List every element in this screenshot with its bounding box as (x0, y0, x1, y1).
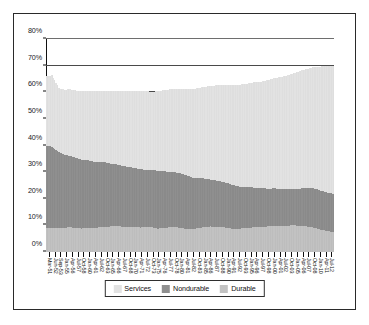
y-tick-label: 40% (28, 132, 42, 141)
x-tick-label: Jan-05 (294, 258, 299, 274)
x-tick-label: Oct-08 (311, 258, 316, 273)
x-tick-label: Apr-81 (185, 258, 190, 273)
legend-label: Durable (231, 284, 255, 293)
x-tick-label: Jan-70 (133, 258, 138, 274)
legend-label: Nondurable (173, 284, 209, 293)
y-tick-label: 60% (28, 79, 42, 88)
legend-item-durable[interactable]: Durable (220, 284, 255, 293)
bar-segment-nondurable (333, 194, 334, 232)
x-tick-label: Jul-12 (329, 258, 334, 272)
y-tick-label: 30% (28, 159, 42, 168)
x-tick-label: Jan-65 (110, 258, 115, 274)
chart-figure: 0%10%20%30%40%50%60%70%80% Mar-51Jun-52S… (13, 13, 356, 310)
y-tick-label: 10% (28, 212, 42, 221)
x-label-slot: Jul-12 (329, 258, 335, 294)
x-tick-label: Jan-60 (87, 258, 92, 274)
bar-segment-durable (333, 232, 334, 252)
plot-area: 0%10%20%30%40%50%60%70%80% (46, 39, 334, 252)
y-tick-label: 80% (28, 26, 42, 35)
x-tick-label: Jan-10 (317, 258, 322, 274)
x-tick-label: Apr-91 (231, 258, 236, 273)
x-tick-label: Jul-72 (144, 258, 149, 272)
legend-swatch-icon (113, 285, 121, 293)
legend-label: Services (124, 284, 151, 293)
x-tick-label: Jan-00 (271, 258, 276, 274)
x-tick-label: Apr-61 (92, 258, 97, 273)
bar-column (333, 39, 334, 252)
x-tick-label: Jul-82 (190, 258, 195, 272)
y-tick-label: 20% (28, 185, 42, 194)
stacked-bars (46, 39, 334, 252)
x-tick-label: Oct-88 (219, 258, 224, 273)
x-tick-label: Jul-87 (213, 258, 218, 272)
y-tick-label: 70% (28, 52, 42, 61)
x-tick-label: Oct-83 (196, 258, 201, 273)
y-tick-label: 50% (28, 105, 42, 114)
x-tick-label: Jul-77 (167, 258, 172, 272)
bar-segment-services (333, 66, 334, 194)
x-tick-label: Apr-56 (69, 258, 74, 273)
x-tick-label: Oct-93 (242, 258, 247, 273)
legend-item-nondurable[interactable]: Nondurable (162, 284, 209, 293)
x-tick-label: Oct-98 (265, 258, 270, 273)
x-tick-label: Jul-67 (121, 258, 126, 272)
x-tick-label: Jan-55 (63, 258, 68, 274)
y-tick-label: 0% (32, 239, 42, 248)
legend-item-services[interactable]: Services (113, 284, 151, 293)
legend-swatch-icon (220, 285, 228, 293)
x-tick-label: Apr-71 (138, 258, 143, 273)
x-tick-label: Jul-07 (306, 258, 311, 272)
chart-legend: ServicesNondurableDurable (104, 280, 264, 297)
x-tick-label: Apr-76 (161, 258, 166, 273)
x-tick-label: Oct-03 (288, 258, 293, 273)
x-tick-label: Jul-92 (236, 258, 241, 272)
x-tick-label: Jul-02 (283, 258, 288, 272)
x-tick-label: Jul-97 (260, 258, 265, 272)
legend-swatch-icon (162, 285, 170, 293)
x-tick-label: Apr-86 (208, 258, 213, 273)
x-tick-label: Sep-53 (58, 258, 63, 274)
x-tick-label: Mar-51 (46, 258, 51, 274)
x-tick-label: Jul-62 (98, 258, 103, 272)
x-tick-label: Apr-66 (115, 258, 120, 273)
